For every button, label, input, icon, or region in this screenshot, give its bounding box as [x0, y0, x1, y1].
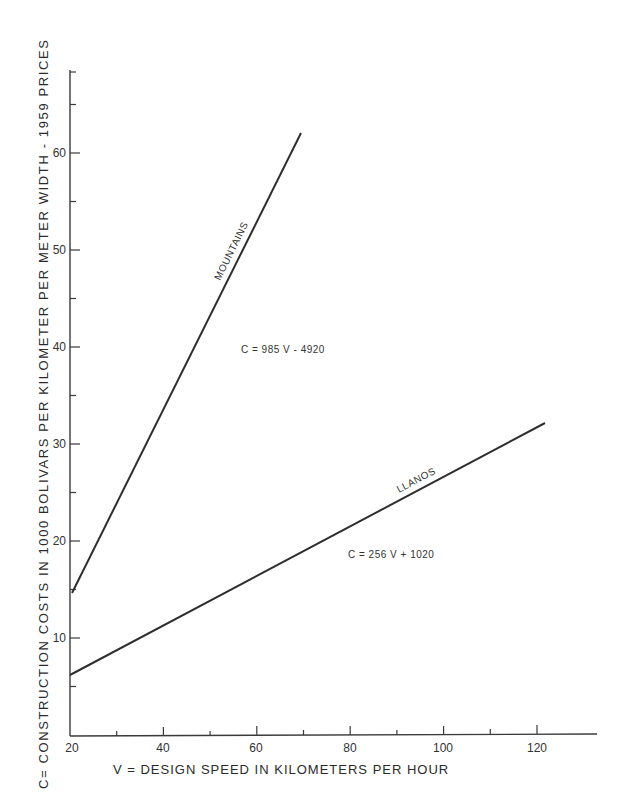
y-tick-labels: 10 20 30 40 50 60 [53, 146, 67, 645]
x-axis [70, 734, 597, 736]
y-tick-label: 30 [53, 437, 67, 451]
x-tick-label: 60 [249, 741, 263, 755]
x-tick-label: 80 [343, 741, 357, 755]
series-mountains-line [72, 133, 301, 593]
y-tick-label: 60 [53, 146, 67, 160]
x-tick-labels: 20 40 60 80 100 120 [65, 741, 547, 755]
y-tick-label: 50 [53, 243, 67, 257]
y-tick-label: 40 [53, 340, 67, 354]
x-tick-label: 100 [433, 741, 453, 755]
series-llanos-line [70, 423, 545, 675]
axes [70, 70, 597, 736]
y-tick-label: 10 [53, 631, 67, 645]
x-tick-label: 40 [156, 741, 170, 755]
y-ticks [70, 72, 80, 687]
x-tick-label: 120 [527, 741, 547, 755]
mountains-equation: C = 985 V - 4920 [241, 344, 325, 355]
y-tick-label: 20 [53, 534, 67, 548]
x-axis-title: V = DESIGN SPEED IN KILOMETERS PER HOUR [113, 762, 449, 777]
chart: 10 20 30 40 50 60 20 40 60 80 100 120 MO… [0, 0, 633, 807]
y-axis-title: C= CONSTRUCTION COSTS IN 1000 BOLIVARS P… [36, 39, 51, 789]
x-tick-label: 20 [65, 741, 79, 755]
llanos-equation: C = 256 V + 1020 [348, 549, 434, 560]
